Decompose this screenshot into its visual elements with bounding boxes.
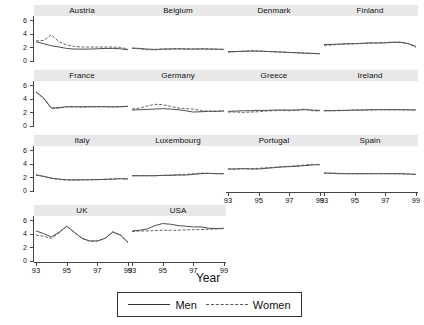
y-tick xyxy=(30,164,33,165)
panel-title-strip: Italy xyxy=(34,135,130,146)
panel-title: Belgium xyxy=(130,5,226,16)
series-line-men xyxy=(36,226,128,242)
y-tick-label: 6 xyxy=(17,82,27,89)
panel-ireland: Ireland xyxy=(322,70,418,127)
panel-title-strip: France xyxy=(34,70,130,81)
panel-title: Denmark xyxy=(226,5,322,16)
x-tick-label: 93 xyxy=(124,267,140,275)
y-tick-label: 4 xyxy=(17,230,27,237)
panel-title-strip: UK xyxy=(34,205,130,216)
panel-title: Italy xyxy=(34,135,130,146)
panel-title: Austria xyxy=(34,5,130,16)
plot-area xyxy=(130,146,226,192)
y-tick-label: 0 xyxy=(17,187,27,194)
panel-title-strip: Austria xyxy=(34,5,130,16)
panel-title: Ireland xyxy=(322,70,418,81)
panel-greece: Greece xyxy=(226,70,322,127)
plot-area xyxy=(130,81,226,127)
y-tick-label: 4 xyxy=(17,30,27,37)
x-tick-label: 95 xyxy=(251,197,267,205)
panel-title: France xyxy=(34,70,130,81)
y-tick-label: 2 xyxy=(17,244,27,251)
legend-swatch-solid xyxy=(128,304,170,305)
plot-area xyxy=(130,16,226,62)
panel-title: Germany xyxy=(130,70,226,81)
y-axis-line xyxy=(33,81,34,127)
plot-area xyxy=(34,16,130,62)
panel-title-strip: Greece xyxy=(226,70,322,81)
x-axis-line xyxy=(34,262,130,263)
legend-item-women[interactable]: Women xyxy=(206,299,291,311)
panel-title: USA xyxy=(130,205,226,216)
panel-title: UK xyxy=(34,205,130,216)
series-line-men xyxy=(36,42,128,50)
panel-title: Portugal xyxy=(226,135,322,146)
panel-title-strip: Belgium xyxy=(130,5,226,16)
x-tick-label: 93 xyxy=(220,197,236,205)
y-tick xyxy=(30,234,33,235)
panel-germany: Germany xyxy=(130,70,226,127)
legend: MenWomen xyxy=(117,292,302,317)
y-tick-label: 2 xyxy=(17,109,27,116)
panel-title-strip: USA xyxy=(130,205,226,216)
y-axis-line xyxy=(33,216,34,262)
y-tick xyxy=(30,126,33,127)
panel-title: Finland xyxy=(322,5,418,16)
series-line-men xyxy=(132,109,224,112)
panel-austria: Austria xyxy=(34,5,130,62)
y-tick xyxy=(30,261,33,262)
y-tick-label: 2 xyxy=(17,44,27,51)
plot-area xyxy=(322,16,418,62)
x-axis-line xyxy=(322,192,418,193)
panel-title-strip: Luxembourg xyxy=(130,135,226,146)
y-tick xyxy=(30,85,33,86)
plot-area xyxy=(226,16,322,62)
panel-finland: Finland xyxy=(322,5,418,62)
panel-usa: USA xyxy=(130,205,226,262)
x-tick-label: 95 xyxy=(59,267,75,275)
x-tick-label: 97 xyxy=(281,197,297,205)
y-tick xyxy=(30,247,33,248)
panel-title-strip: Portugal xyxy=(226,135,322,146)
y-tick-label: 0 xyxy=(17,57,27,64)
x-axis-title: Year xyxy=(158,271,258,285)
plot-area xyxy=(322,81,418,127)
x-tick-label: 97 xyxy=(377,197,393,205)
panel-uk: UK xyxy=(34,205,130,262)
legend-item-men[interactable]: Men xyxy=(128,299,196,311)
plot-area xyxy=(226,146,322,192)
y-tick-label: 6 xyxy=(17,17,27,24)
x-tick-label: 97 xyxy=(89,267,105,275)
y-tick-label: 2 xyxy=(17,174,27,181)
y-tick xyxy=(30,34,33,35)
y-tick xyxy=(30,99,33,100)
legend-swatch-dashed xyxy=(206,304,248,305)
panel-title-strip: Denmark xyxy=(226,5,322,16)
x-tick-label: 99 xyxy=(408,197,424,205)
panel-spain: Spain xyxy=(322,135,418,192)
x-axis-line xyxy=(226,192,322,193)
series-line-women xyxy=(228,164,320,169)
panel-denmark: Denmark xyxy=(226,5,322,62)
panel-portugal: Portugal xyxy=(226,135,322,192)
y-tick-label: 4 xyxy=(17,95,27,102)
panel-title: Spain xyxy=(322,135,418,146)
legend-label: Men xyxy=(175,299,196,311)
x-tick-label: 93 xyxy=(28,267,44,275)
plot-area xyxy=(34,216,130,262)
panel-title-strip: Spain xyxy=(322,135,418,146)
plot-area xyxy=(130,216,226,262)
series-line-women xyxy=(36,226,128,242)
panel-italy: Italy xyxy=(34,135,130,192)
y-tick xyxy=(30,220,33,221)
plot-area xyxy=(322,146,418,192)
panel-france: France xyxy=(34,70,130,127)
y-tick-label: 0 xyxy=(17,122,27,129)
y-tick xyxy=(30,112,33,113)
y-tick-label: 0 xyxy=(17,257,27,264)
panel-title-strip: Finland xyxy=(322,5,418,16)
x-axis-line xyxy=(130,262,226,263)
panel-title: Luxembourg xyxy=(130,135,226,146)
series-line-women xyxy=(324,173,416,174)
x-tick-label: 95 xyxy=(347,197,363,205)
